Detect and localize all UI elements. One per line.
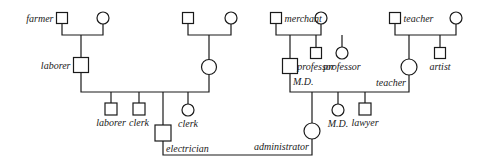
person-label-child-clerk-f: clerk: [178, 118, 199, 129]
male-square-icon: [271, 13, 282, 24]
person-label-administrator: administrator: [254, 141, 309, 152]
person-label-child-clerk-m: clerk: [129, 117, 150, 128]
person-label-laborer-father: laborer: [41, 60, 71, 71]
female-circle-icon: [336, 47, 348, 59]
male-square-icon: [133, 103, 145, 115]
marriage-line: [188, 24, 231, 36]
marriage-line: [395, 24, 456, 36]
person-labels: farmerlaborerlaborerclerkelectriciancler…: [26, 13, 451, 155]
male-square-icon: [283, 59, 298, 74]
male-square-icon: [57, 13, 68, 24]
person-label-child-laborer: laborer: [96, 117, 126, 128]
male-square-icon: [435, 48, 446, 59]
female-circle-icon: [450, 12, 462, 24]
female-circle-icon: [182, 104, 194, 116]
female-circle-icon: [401, 59, 417, 75]
marriage-line: [81, 73, 209, 93]
female-circle-icon: [202, 60, 217, 75]
pedigree-diagram: farmerlaborerlaborerclerkelectriciancler…: [0, 0, 486, 163]
male-square-icon: [155, 125, 171, 141]
female-circle-icon: [332, 104, 344, 116]
male-square-icon: [183, 13, 194, 24]
marriage-line: [276, 24, 321, 36]
person-label-lawyer: lawyer: [351, 117, 378, 128]
person-label-merchant: merchant: [285, 13, 323, 24]
person-label-artist: artist: [429, 61, 450, 72]
male-square-icon: [74, 58, 89, 73]
person-label-teacher: teacher: [404, 13, 434, 24]
male-square-icon: [105, 103, 117, 115]
male-square-icon: [359, 103, 371, 115]
female-circle-icon: [304, 123, 320, 139]
male-square-icon: [390, 13, 401, 24]
female-circle-icon: [225, 12, 237, 24]
person-label-farmer: farmer: [26, 13, 53, 24]
female-circle-icon: [97, 12, 109, 24]
person-label-md-father: M.D.: [292, 76, 314, 87]
marriage-line: [62, 24, 103, 36]
male-square-icon: [311, 48, 322, 59]
relationship-lines: [62, 24, 456, 156]
person-label-professor-f: professor: [322, 61, 361, 72]
person-label-child-md: M.D.: [327, 118, 349, 129]
person-label-electrician: electrician: [166, 143, 209, 154]
person-label-teacher-mother: teacher: [376, 77, 406, 88]
